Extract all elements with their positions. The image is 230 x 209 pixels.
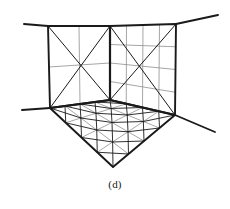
figure-caption: (d) (0, 178, 230, 190)
floor-cell-diagonal (112, 123, 113, 143)
floor-cell-diagonal (81, 118, 82, 138)
floor-cell-diagonal (97, 130, 98, 152)
floor-cell-diagonal (143, 122, 144, 142)
figure-root: (d) (0, 0, 230, 209)
floor-cell-diagonal (128, 132, 129, 154)
